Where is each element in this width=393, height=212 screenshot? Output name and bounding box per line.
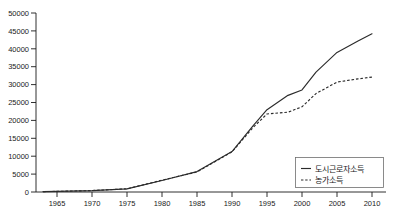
- y-tick-label: 25000: [8, 98, 29, 107]
- y-tick-label: 10000: [8, 152, 29, 161]
- y-axis-ticks: 0500010000150002000025000300003500040000…: [8, 9, 36, 197]
- y-tick-label: 20000: [8, 116, 29, 125]
- x-axis-ticks: 1965197019751980198519901995200020052010: [49, 192, 381, 208]
- x-tick-label: 2000: [294, 199, 311, 208]
- x-tick-label: 1995: [259, 199, 276, 208]
- x-tick-label: 1990: [224, 199, 241, 208]
- x-tick-label: 1985: [189, 199, 206, 208]
- chart-legend[interactable]: 도시근로자소득 농가소득: [296, 158, 384, 188]
- x-tick-label: 1970: [84, 199, 101, 208]
- y-tick-label: 45000: [8, 27, 29, 36]
- x-tick-label: 2005: [329, 199, 346, 208]
- y-tick-label: 40000: [8, 45, 29, 54]
- y-tick-label: 30000: [8, 80, 29, 89]
- y-tick-label: 15000: [8, 134, 29, 143]
- x-tick-label: 1980: [154, 199, 171, 208]
- legend-label-urban-worker-income: 도시근로자소득: [315, 165, 364, 174]
- chart-canvas: 0500010000150002000025000300003500040000…: [0, 0, 393, 212]
- x-tick-label: 1965: [49, 199, 66, 208]
- line-chart-figure: 0500010000150002000025000300003500040000…: [0, 0, 393, 212]
- y-tick-label: 0: [25, 188, 29, 197]
- y-tick-label: 35000: [8, 62, 29, 71]
- y-tick-label: 5000: [12, 170, 29, 179]
- legend-label-farm-household-income: 농가소득: [315, 176, 343, 185]
- y-tick-label: 50000: [8, 9, 29, 18]
- x-tick-label: 1975: [119, 199, 136, 208]
- x-tick-label: 2010: [364, 199, 381, 208]
